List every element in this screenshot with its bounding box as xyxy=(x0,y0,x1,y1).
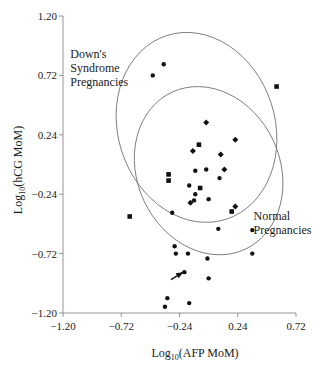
x-tick-label: 0.72 xyxy=(286,320,305,332)
annotation-label: NormalPregnancies xyxy=(254,209,312,237)
data-point-square xyxy=(274,84,279,89)
data-point-circle xyxy=(187,301,191,305)
data-point-square xyxy=(166,172,171,177)
data-point-square xyxy=(229,209,234,214)
ellipse-normal-pregnancies xyxy=(107,62,310,279)
x-tick-label: −0.24 xyxy=(167,320,193,332)
annotation-label: Down'sSyndromePregnancies xyxy=(70,47,128,89)
x-tick-label: 0.24 xyxy=(228,320,248,332)
data-point-circle xyxy=(216,227,220,231)
data-point-circle xyxy=(170,211,174,215)
data-point-circle xyxy=(172,244,176,248)
x-tick-label: −0.72 xyxy=(109,320,134,332)
scatter-chart: 1.200.720.24−0.24−0.72−1.20−1.20−0.72−0.… xyxy=(0,0,330,365)
data-point-diamond xyxy=(190,148,196,154)
data-point-square xyxy=(166,178,171,183)
data-point-circle xyxy=(250,251,254,255)
data-point-circle xyxy=(186,251,190,255)
data-point-circle xyxy=(163,305,167,309)
data-point-square xyxy=(197,142,202,147)
data-point-circle xyxy=(205,256,209,260)
y-tick-label: 0.72 xyxy=(38,69,57,81)
data-point-circle xyxy=(193,168,197,172)
y-tick-label: 1.20 xyxy=(38,10,58,22)
data-point-circle xyxy=(204,167,208,171)
data-point-circle xyxy=(151,73,155,77)
y-tick-label: 0.24 xyxy=(38,129,58,141)
data-point-square xyxy=(127,214,132,219)
y-axis-label: Log10(hCG MoM) xyxy=(11,126,27,214)
y-tick-label: −1.20 xyxy=(32,307,58,319)
y-tick-label: −0.24 xyxy=(32,188,58,200)
data-point-circle xyxy=(174,251,178,255)
data-point-diamond xyxy=(203,119,209,125)
data-point-circle xyxy=(206,276,210,280)
data-point-circle xyxy=(217,176,221,180)
data-point-circle xyxy=(192,198,196,202)
data-points xyxy=(127,62,278,309)
data-point-circle xyxy=(193,192,197,196)
data-point-circle xyxy=(206,197,210,201)
data-point-diamond xyxy=(221,166,227,172)
x-axis-label: Log10(AFP MoM) xyxy=(151,346,238,362)
data-point-diamond xyxy=(232,137,238,143)
x-tick-label: −1.20 xyxy=(50,320,76,332)
y-tick-label: −0.72 xyxy=(32,248,57,260)
data-point-circle xyxy=(165,296,169,300)
data-point-circle xyxy=(187,183,191,187)
annotations: Down'sSyndromePregnanciesNormalPregnanci… xyxy=(70,47,312,237)
data-point-circle xyxy=(162,62,166,66)
data-point-diamond xyxy=(218,152,224,158)
data-point-diamond xyxy=(232,204,238,210)
data-point-square xyxy=(198,186,203,191)
